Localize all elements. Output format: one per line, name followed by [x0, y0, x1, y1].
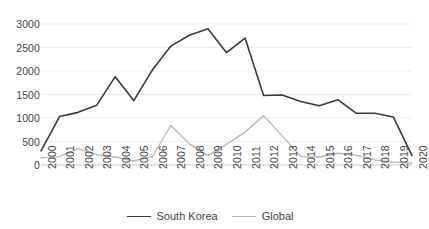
y-tick-label: 2500: [4, 43, 40, 53]
y-tick-label: 0: [4, 160, 40, 170]
legend-item[interactable]: South Korea: [127, 210, 218, 222]
chart-legend: South KoreaGlobal: [0, 206, 420, 226]
y-tick-label: 2000: [4, 66, 40, 76]
legend-item[interactable]: Global: [232, 210, 294, 222]
legend-label: South Korea: [157, 210, 218, 222]
y-tick-label: 500: [4, 137, 40, 147]
legend-label: Global: [262, 210, 294, 222]
series-line-global: [41, 116, 412, 163]
legend-line-icon: [232, 216, 256, 217]
y-tick-label: 3000: [4, 19, 40, 29]
legend-line-icon: [127, 216, 151, 217]
y-tick-label: 1000: [4, 113, 40, 123]
y-tick-label: 1500: [4, 90, 40, 100]
y-axis: 050010001500200025003000: [0, 0, 40, 180]
